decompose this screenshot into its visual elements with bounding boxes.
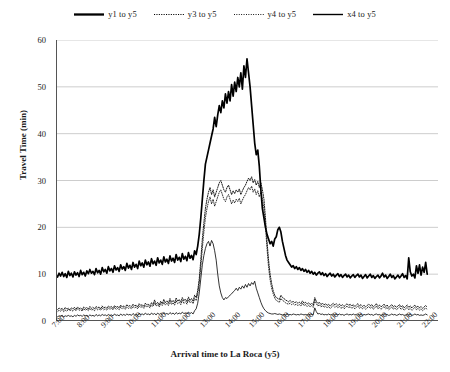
legend-item: y4 to y5 <box>234 9 297 19</box>
plot-svg <box>56 40 438 321</box>
y-tick-label: 50 <box>38 82 47 92</box>
travel-time-chart: y1 to y5y3 to y5y4 to y5x4 to y5 0102030… <box>0 0 450 372</box>
legend-line-icon <box>74 10 104 19</box>
legend-item: y3 to y5 <box>154 9 217 19</box>
y-tick-label: 10 <box>38 269 47 279</box>
legend-item: x4 to y5 <box>313 9 376 19</box>
y-tick-label: 40 <box>38 129 47 139</box>
y-tick-label: 20 <box>38 222 47 232</box>
legend-label: y3 to y5 <box>188 9 217 19</box>
series-line-3 <box>56 240 427 316</box>
series-line-0 <box>56 59 427 279</box>
legend-line-icon <box>313 10 343 19</box>
legend-item: y1 to y5 <box>74 9 137 19</box>
legend-label: y4 to y5 <box>268 9 297 19</box>
series-line-1 <box>56 177 427 310</box>
plot-area <box>56 40 438 321</box>
y-tick-label: 60 <box>38 35 47 45</box>
legend-line-icon <box>154 10 184 19</box>
chart-legend: y1 to y5y3 to y5y4 to y5x4 to y5 <box>0 9 450 19</box>
y-axis-title: Travel Time (min) <box>18 75 28 215</box>
x-axis-title: Arrival time to La Roca (y5) <box>0 349 450 359</box>
legend-label: x4 to y5 <box>347 9 376 19</box>
legend-label: y1 to y5 <box>108 9 137 19</box>
legend-line-icon <box>234 10 264 19</box>
series-line-2 <box>56 186 427 312</box>
y-tick-label: 30 <box>38 176 47 186</box>
